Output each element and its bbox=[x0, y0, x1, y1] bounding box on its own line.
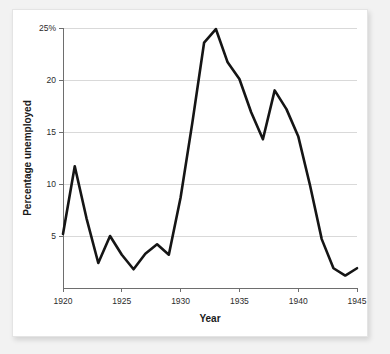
y-axis-ticks: 510152025% bbox=[39, 23, 63, 241]
axes bbox=[63, 28, 357, 288]
x-tick-label: 1940 bbox=[289, 296, 308, 306]
x-tick-label: 1945 bbox=[348, 296, 367, 306]
x-tick-label: 1930 bbox=[171, 296, 190, 306]
unemployment-series-line bbox=[63, 29, 357, 275]
x-axis-ticks: 192019251930193519401945 bbox=[54, 288, 367, 306]
gridlines bbox=[63, 28, 357, 236]
line-chart: 510152025% 192019251930193519401945 Year… bbox=[13, 10, 369, 338]
chart-svg: 510152025% 192019251930193519401945 Year… bbox=[13, 10, 369, 338]
page-background: 510152025% 192019251930193519401945 Year… bbox=[0, 0, 390, 354]
x-tick-label: 1925 bbox=[112, 296, 131, 306]
y-tick-label: 20 bbox=[47, 75, 57, 85]
y-tick-label: 10 bbox=[47, 179, 57, 189]
y-tick-label: 5 bbox=[51, 231, 56, 241]
y-axis-title: Percentage unemployed bbox=[22, 100, 33, 216]
x-tick-label: 1935 bbox=[230, 296, 249, 306]
y-tick-label: 15 bbox=[47, 127, 57, 137]
x-tick-label: 1920 bbox=[54, 296, 73, 306]
figure-card: 510152025% 192019251930193519401945 Year… bbox=[12, 9, 368, 337]
y-tick-label: 25% bbox=[39, 23, 56, 33]
x-axis-title: Year bbox=[199, 313, 220, 324]
